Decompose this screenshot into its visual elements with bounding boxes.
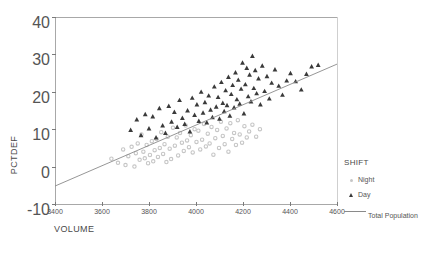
x-tick-mark (290, 202, 291, 206)
y-tick-mark (52, 17, 56, 18)
x-tick-mark (196, 202, 197, 206)
legend-label-day: Day (358, 191, 370, 199)
plot-frame (55, 17, 337, 204)
legend-label-total-population: Total Population (366, 212, 429, 220)
scatter-chart: -10010203040 340036003800400042004400460… (0, 0, 429, 255)
x-tick-mark (55, 202, 56, 206)
y-tick-label: 40 (26, 14, 50, 21)
legend-title: SHIFT (344, 158, 429, 168)
legend: SHIFT Night Day Total Population (344, 158, 429, 220)
x-axis-title: VOLUME (54, 224, 94, 234)
circle-icon (344, 174, 358, 186)
y-tick-mark (52, 54, 56, 55)
x-tick-mark (149, 202, 150, 206)
x-tick-label: 4000 (176, 208, 216, 216)
x-tick-label: 3400 (35, 208, 75, 216)
y-tick-mark (52, 167, 56, 168)
x-tick-label: 3600 (82, 208, 122, 216)
x-tick-label: 4200 (223, 208, 263, 216)
x-tick-label: 3800 (129, 208, 169, 216)
y-tick-mark (52, 92, 56, 93)
y-tick-label: -10 (26, 201, 50, 208)
legend-item-day[interactable]: Day (344, 189, 429, 201)
x-tick-label: 4400 (270, 208, 310, 216)
line-icon (344, 211, 366, 212)
legend-label-night: Night (358, 176, 374, 184)
y-axis-title: PCTDEF (9, 127, 19, 183)
x-tick-mark (337, 202, 338, 206)
x-tick-mark (102, 202, 103, 206)
x-tick-mark (243, 202, 244, 206)
triangle-icon (344, 189, 358, 201)
y-tick-label: 30 (26, 51, 50, 58)
y-tick-label: 10 (26, 126, 50, 133)
legend-item-night[interactable]: Night (344, 174, 429, 186)
y-tick-label: 20 (26, 89, 50, 96)
plot-frame-right-edge (337, 17, 338, 204)
y-tick-label: 0 (26, 164, 50, 171)
y-tick-mark (52, 129, 56, 130)
